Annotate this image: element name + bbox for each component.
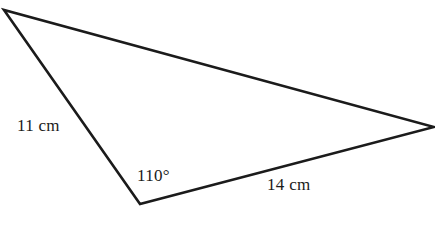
angle-label: 110° bbox=[137, 167, 170, 184]
side-length-label-bottom: 14 cm bbox=[267, 176, 311, 193]
triangle-shape bbox=[4, 10, 434, 204]
side-length-label-left: 11 cm bbox=[17, 117, 60, 134]
triangle-figure bbox=[0, 0, 435, 240]
